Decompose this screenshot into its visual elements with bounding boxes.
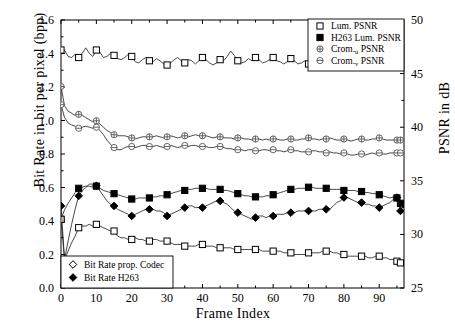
x-tick-label: 80 bbox=[338, 291, 350, 305]
data-point-marker bbox=[288, 55, 294, 61]
data-point-marker bbox=[252, 246, 258, 252]
legend-item-label: Bit Rate prop. Codec bbox=[84, 260, 164, 270]
data-point-marker bbox=[305, 250, 311, 256]
data-point-marker bbox=[111, 52, 117, 58]
data-point-marker bbox=[216, 197, 224, 205]
data-point-marker bbox=[111, 144, 117, 150]
y-tick-label-right: 50 bbox=[411, 13, 423, 27]
data-point-marker bbox=[93, 47, 99, 53]
data-point-marker bbox=[199, 133, 205, 139]
y-tick-label-left: 0.4 bbox=[39, 214, 54, 228]
data-point-marker bbox=[182, 243, 188, 249]
data-point-marker bbox=[252, 194, 258, 200]
data-point-marker bbox=[358, 151, 364, 157]
data-point-marker bbox=[58, 102, 64, 108]
data-point-marker bbox=[164, 238, 170, 244]
legend-item-label: Lum. PSNR bbox=[331, 21, 378, 31]
data-point-marker bbox=[129, 135, 135, 141]
data-point-marker bbox=[341, 251, 347, 257]
data-point-marker bbox=[146, 195, 152, 201]
data-point-marker bbox=[182, 133, 188, 139]
x-tick-label: 10 bbox=[90, 291, 102, 305]
data-point-marker bbox=[322, 205, 330, 213]
data-point-marker bbox=[128, 212, 136, 220]
data-point-marker bbox=[235, 58, 241, 64]
data-point-marker bbox=[375, 204, 383, 212]
data-point-marker bbox=[397, 207, 405, 215]
data-point-marker bbox=[252, 54, 258, 60]
data-point-marker bbox=[288, 136, 294, 142]
x-tick-label: 60 bbox=[267, 291, 279, 305]
x-tick-label: 90 bbox=[373, 291, 385, 305]
data-point-marker bbox=[288, 147, 294, 153]
y-tick-label-left: 0.2 bbox=[39, 248, 54, 262]
data-point-marker bbox=[317, 46, 323, 52]
data-point-marker bbox=[341, 136, 347, 142]
data-point-marker bbox=[76, 111, 82, 117]
data-point-marker bbox=[146, 134, 152, 140]
data-point-marker bbox=[341, 187, 347, 193]
data-point-marker bbox=[252, 136, 258, 142]
data-point-marker bbox=[323, 136, 329, 142]
data-point-marker bbox=[217, 143, 223, 149]
data-point-marker bbox=[252, 214, 260, 222]
data-point-marker bbox=[182, 142, 188, 148]
data-point-marker bbox=[217, 186, 223, 192]
data-point-marker bbox=[199, 143, 205, 149]
data-point-marker bbox=[287, 209, 295, 217]
data-point-marker bbox=[376, 253, 382, 259]
data-point-marker bbox=[358, 136, 364, 142]
data-point-marker bbox=[305, 135, 311, 141]
data-point-marker bbox=[358, 188, 364, 194]
data-point-marker bbox=[164, 143, 170, 149]
data-point-marker bbox=[270, 147, 276, 153]
x-tick-label: 30 bbox=[161, 291, 173, 305]
data-point-marker bbox=[199, 241, 205, 247]
data-point-marker bbox=[397, 260, 403, 266]
data-point-marker bbox=[217, 57, 223, 63]
data-point-marker bbox=[76, 185, 82, 191]
data-point-marker bbox=[217, 134, 223, 140]
data-point-marker bbox=[376, 192, 382, 198]
y-tick-label-right: 45 bbox=[411, 67, 423, 81]
data-point-marker bbox=[317, 23, 323, 29]
data-point-marker bbox=[305, 207, 313, 215]
y-tick-label-right: 40 bbox=[411, 120, 423, 134]
data-point-marker bbox=[93, 221, 99, 227]
data-point-marker bbox=[234, 209, 242, 217]
data-point-marker bbox=[164, 62, 170, 68]
y-tick-label-right: 25 bbox=[411, 281, 423, 295]
data-point-marker bbox=[182, 187, 188, 193]
data-point-marker bbox=[323, 248, 329, 254]
data-point-marker bbox=[305, 149, 311, 155]
data-point-marker bbox=[397, 137, 403, 143]
data-point-marker bbox=[397, 150, 403, 156]
data-point-marker bbox=[288, 250, 294, 256]
data-point-marker bbox=[146, 205, 154, 213]
data-point-marker bbox=[358, 199, 366, 207]
data-point-marker bbox=[129, 53, 135, 59]
x-tick-label: 40 bbox=[196, 291, 208, 305]
data-point-marker bbox=[235, 246, 241, 252]
data-point-marker bbox=[164, 134, 170, 140]
data-point-marker bbox=[199, 54, 205, 60]
data-point-marker bbox=[323, 185, 329, 191]
data-point-marker bbox=[323, 150, 329, 156]
legend-item-label: H263 Lum. PSNR bbox=[331, 33, 402, 43]
y-axis-label-left: Bit Rate in bit per pixel (bpp) bbox=[32, 0, 48, 210]
x-tick-label: 70 bbox=[303, 291, 315, 305]
data-point-marker bbox=[199, 204, 207, 212]
data-point-marker bbox=[270, 54, 276, 60]
data-point-marker bbox=[305, 184, 311, 190]
data-point-marker bbox=[146, 58, 152, 64]
y-axis-label-right: PSNR in dB bbox=[437, 28, 453, 208]
legend-item-label: Crom.v PSNR bbox=[331, 56, 385, 67]
y-tick-label-right: 30 bbox=[411, 227, 423, 241]
data-point-marker bbox=[76, 54, 82, 60]
data-point-marker bbox=[182, 60, 188, 66]
legend-item-label: Bit Rate H263 bbox=[84, 273, 139, 283]
data-point-marker bbox=[181, 204, 189, 212]
data-point-marker bbox=[76, 225, 82, 231]
data-point-marker bbox=[394, 0, 400, 6]
y-tick-label-left: 0.0 bbox=[39, 281, 54, 295]
